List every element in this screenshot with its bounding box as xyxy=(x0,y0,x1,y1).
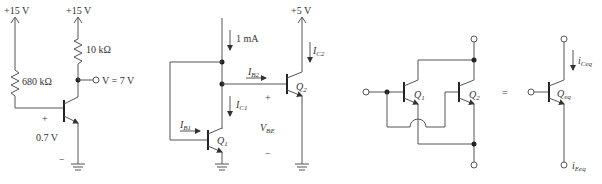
qeq-collector xyxy=(549,80,564,86)
ground-icon xyxy=(295,164,309,170)
input-terminal xyxy=(363,89,369,95)
q1-collector xyxy=(404,80,418,86)
vbe-value: 0.7 V xyxy=(36,132,59,143)
ground-icon xyxy=(215,164,229,170)
resistor-10k-label: 10 kΩ xyxy=(86,44,111,55)
circuit-c-parallel-transistors: Q1 Q2 = Qeq iCeq iEeq xyxy=(363,36,593,173)
circuit-b-current-mirror: 1 mA IB1 IC1 Q1 IB2 + VBE − Q2 xyxy=(170,5,325,170)
output-label: V = 7 V xyxy=(102,75,135,86)
vbe-plus: + xyxy=(42,113,48,124)
vbe-minus: − xyxy=(59,154,65,165)
resistor-10k-icon xyxy=(74,39,82,64)
supply-right-label: +15 V xyxy=(66,5,92,16)
supply-label: +5 V xyxy=(291,5,312,16)
feedback-wire xyxy=(170,62,222,140)
supply-left-label: +15 V xyxy=(4,5,30,16)
junction-dot xyxy=(472,58,477,63)
ib1-label: IB1 xyxy=(179,119,191,132)
ground-icon xyxy=(71,164,85,170)
eq-base-terminal xyxy=(528,89,534,95)
resistor-680k-label: 680 kΩ xyxy=(22,76,52,87)
vbe-minus: − xyxy=(265,148,271,159)
q1-label: Q1 xyxy=(217,135,228,148)
emitter-terminal xyxy=(471,162,477,168)
circuit-a-fixed-bias: +15 V 680 kΩ + 0.7 V − V = 7 V 10 kΩ xyxy=(4,5,135,170)
ref-current-label: 1 mA xyxy=(236,33,259,44)
vbe-label: VBE xyxy=(260,122,275,135)
eq-collector-terminal xyxy=(561,36,567,42)
junction-dot xyxy=(472,142,477,147)
emitter-lead xyxy=(64,116,78,123)
collector-terminal xyxy=(471,36,477,42)
emitter-bottom-wire xyxy=(418,104,474,144)
q1-emitter xyxy=(208,146,222,152)
q1-label: Q1 xyxy=(414,89,425,102)
ic1-label: IC1 xyxy=(235,99,248,112)
q2-label: Q2 xyxy=(296,81,307,94)
q1-collector xyxy=(208,128,222,134)
equals-sign: = xyxy=(502,87,508,98)
output-terminal xyxy=(93,77,99,83)
eq-emitter-terminal xyxy=(561,162,567,168)
circuit-diagram: +15 V 680 kΩ + 0.7 V − V = 7 V 10 kΩ xyxy=(0,0,602,184)
resistor-680k-icon xyxy=(11,70,19,96)
q2-collector xyxy=(287,72,302,78)
ieeq-label: iEeq xyxy=(572,160,586,173)
q2-label: Q2 xyxy=(469,89,480,102)
q2-collector xyxy=(459,80,474,86)
vbe-plus: + xyxy=(265,92,271,103)
collector-top-wire xyxy=(418,60,474,80)
ib2-label: IB2 xyxy=(247,66,260,79)
ic2-label: IC2 xyxy=(312,45,325,58)
qeq-label: Qeq xyxy=(557,88,571,101)
iceq-label: iCeq xyxy=(578,55,593,68)
collector-lead xyxy=(64,97,78,104)
